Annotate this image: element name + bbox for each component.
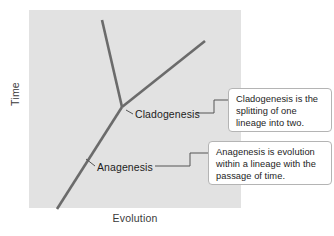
evolution-lineage-figure: Time Evolution Cladogenesis Anagenesis C… [0,0,334,236]
callout-text-line: Anagenesis is evolution [216,146,325,158]
callout-text-line: lineage into two. [236,117,325,129]
cladogenesis-label: Cladogenesis [135,108,200,120]
callout-text-line: splitting of one [236,105,325,117]
cladogenesis-right-branch-line [122,41,205,107]
anagenesis-callout-leader [155,153,208,166]
cladogenesis-callout-leader [196,100,228,113]
cladogenesis-callout-box: Cladogenesis is the splitting of one lin… [228,88,332,132]
cladogenesis-label-leader [126,110,133,114]
anagenesis-callout-box: Anagenesis is evolution within a lineage… [208,141,332,185]
cladogenesis-left-branch-line [102,20,122,107]
anagenesis-stem-line [57,107,122,209]
callout-text-line: within a lineage with the [216,158,325,170]
callout-text-line: passage of time. [216,170,325,182]
anagenesis-label: Anagenesis [97,161,153,173]
callout-text-line: Cladogenesis is the [236,93,325,105]
